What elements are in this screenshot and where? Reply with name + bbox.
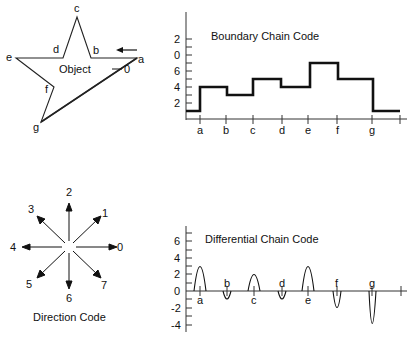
arrow-down-icon xyxy=(66,281,72,289)
x-tick-label: c xyxy=(251,294,257,306)
y-tick-label: -4 xyxy=(171,319,181,331)
y-ticks xyxy=(186,233,192,325)
traversal-arrow-icon xyxy=(116,47,123,53)
y-tick-label: 2 xyxy=(174,97,180,109)
start-code-label: 0 xyxy=(124,63,130,75)
x-tick-label: f xyxy=(335,277,339,289)
vertex-label-g: g xyxy=(33,121,39,133)
x-tick-label: d xyxy=(279,277,285,289)
vertex-label-d: d xyxy=(53,43,59,55)
chart-title: Differential Chain Code xyxy=(205,233,319,245)
y-tick-label: 0 xyxy=(174,285,180,297)
chart-title: Boundary Chain Code xyxy=(211,30,319,42)
direction-label-7: 7 xyxy=(101,279,107,291)
direction-label-5: 5 xyxy=(26,278,32,290)
boundary-chain-chart: 2 4 6 0 2 a b c d e f g Boundary Chain C… xyxy=(174,12,407,136)
x-tick-label: e xyxy=(305,294,311,306)
x-tick-label: g xyxy=(369,124,375,136)
vertex-label-a: a xyxy=(138,53,145,65)
x-tick-label: f xyxy=(336,124,340,136)
x-tick-label: a xyxy=(197,294,204,306)
direction-label-1: 1 xyxy=(102,207,108,219)
y-tick-label: 0 xyxy=(174,49,180,61)
x-tick-label: a xyxy=(197,124,204,136)
y-tick-label: 4 xyxy=(174,252,180,264)
arrow-left-icon xyxy=(22,244,30,250)
vertex-label-f: f xyxy=(45,83,49,95)
object-label: Object xyxy=(59,63,91,75)
direction-label-2: 2 xyxy=(66,186,72,198)
y-ticks xyxy=(186,39,192,111)
star-object: 0 a b c d e f g Object xyxy=(6,2,145,133)
x-tick-label: c xyxy=(250,124,256,136)
direction-code-title: Direction Code xyxy=(33,311,106,323)
vertex-label-b: b xyxy=(93,44,99,56)
y-tick-label: -2 xyxy=(171,302,181,314)
y-tick-label: 2 xyxy=(174,268,180,280)
differential-pulses xyxy=(194,267,376,324)
direction-label-3: 3 xyxy=(28,203,34,215)
chain-code-step-line xyxy=(186,63,400,111)
vertex-label-c: c xyxy=(74,2,80,14)
x-tick-label: d xyxy=(279,124,285,136)
y-tick-label: 6 xyxy=(174,235,180,247)
x-tick-label: e xyxy=(305,124,311,136)
direction-label-4: 4 xyxy=(10,241,16,253)
differential-chain-chart: 6 4 2 0 -2 -4 a b c d e f g Differential… xyxy=(171,226,407,332)
y-tick-label: 6 xyxy=(174,65,180,77)
direction-label-0: 0 xyxy=(117,241,123,253)
x-tick-label: g xyxy=(369,277,375,289)
y-tick-label: 2 xyxy=(174,33,180,45)
chain-code-figure: 0 a b c d e f g Object 2 4 6 0 2 xyxy=(0,0,418,338)
vertex-label-e: e xyxy=(6,51,12,63)
x-tick-label: b xyxy=(223,124,229,136)
arrow-up-icon xyxy=(66,203,72,211)
x-tick-label: b xyxy=(224,277,230,289)
y-tick-label: 4 xyxy=(174,81,180,93)
direction-label-6: 6 xyxy=(66,292,72,304)
arrow-right-icon xyxy=(109,244,117,250)
